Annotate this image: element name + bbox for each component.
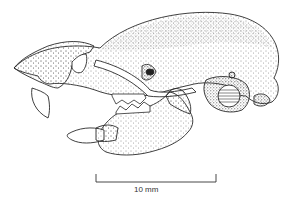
- lower-incisor: [67, 125, 118, 143]
- scale-bar-label: 10 mm: [134, 185, 158, 194]
- skull-illustration: [0, 0, 289, 203]
- lower-molars: [116, 102, 150, 114]
- upper-molars: [112, 94, 146, 104]
- upper-incisor: [32, 88, 50, 118]
- scale-bar: [96, 174, 216, 182]
